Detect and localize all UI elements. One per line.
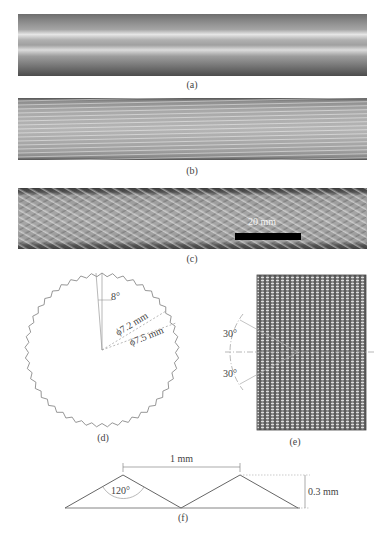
caption-a: (a) [172,79,212,90]
scale-bar-label: 20 mm [248,216,276,227]
mesh-rectangle [257,275,366,430]
radial-line-left [96,273,102,350]
lower-angle-label: 30° [223,368,237,379]
knurl-pattern-diagram: 30° 30° [220,268,381,438]
caption-b: (b) [172,165,212,176]
caption-e: (e) [275,436,315,447]
knurled-tube-photo [18,188,367,249]
caption-d: (d) [83,432,123,443]
groove-profile-diagram: 1 mm 0.3 mm 120° [50,448,381,534]
serrated-cross-section-diagram: 8° ϕ7.2 mm ϕ7.5 mm [0,260,220,450]
pitch-label: 1 mm [170,453,193,464]
angle-label: 8° [111,291,120,302]
upper-angle-label: 30° [223,328,237,339]
grooved-tube-photo [18,98,367,160]
smooth-tube-photo [18,14,367,76]
scale-bar [235,233,301,240]
triangle-profile [65,475,298,508]
caption-f: (f) [163,512,203,523]
apex-angle-label: 120° [111,485,130,496]
height-label: 0.3 mm [308,486,339,497]
